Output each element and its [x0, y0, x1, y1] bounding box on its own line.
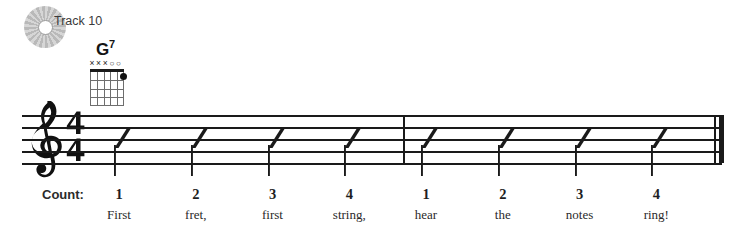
staff-line-3	[22, 139, 722, 141]
lyric-syllable-1: First	[84, 207, 154, 223]
music-notation-page: Track 10 G7 ×××○○ Count: 12341234First	[0, 0, 743, 244]
rhythm-slash-measure2-beat4	[650, 121, 680, 179]
staff-line-2	[22, 127, 722, 129]
count-beat-3: 3	[258, 186, 288, 203]
rhythm-slash-measure1-beat1	[113, 121, 143, 179]
staff-line-4	[22, 151, 722, 153]
rhythm-slash-measure1-beat2	[190, 121, 220, 179]
count-label: Count:	[42, 187, 84, 202]
rhythm-slash-measure2-beat1	[420, 121, 450, 179]
final-barline-thick	[719, 115, 724, 163]
barline-measure-1-end	[403, 115, 405, 163]
count-beat-8: 4	[641, 186, 671, 203]
count-beat-4: 4	[334, 186, 364, 203]
lyric-syllable-2: fret,	[161, 207, 231, 223]
count-beat-7: 3	[565, 186, 595, 203]
lyric-syllable-4: string,	[314, 207, 384, 223]
count-beat-2: 2	[181, 186, 211, 203]
rhythm-slash-measure1-beat3	[267, 121, 297, 179]
time-signature	[66, 110, 92, 164]
count-beat-1: 1	[104, 186, 134, 203]
count-beat-5: 1	[411, 186, 441, 203]
count-beat-6: 2	[488, 186, 518, 203]
final-barline-thin	[714, 115, 716, 163]
lyric-syllable-8: ring!	[621, 207, 691, 223]
rhythm-slash-measure1-beat4	[343, 121, 373, 179]
staff-line-1	[22, 115, 722, 117]
staff-line-5	[22, 163, 722, 165]
lyric-syllable-6: the	[468, 207, 538, 223]
rhythm-slash-measure2-beat3	[574, 121, 604, 179]
lyric-syllable-7: notes	[545, 207, 615, 223]
lyric-syllable-5: hear	[391, 207, 461, 223]
rhythm-slash-measure2-beat2	[497, 121, 527, 179]
lyric-syllable-3: first	[238, 207, 308, 223]
time-sig-denominator	[67, 139, 85, 162]
